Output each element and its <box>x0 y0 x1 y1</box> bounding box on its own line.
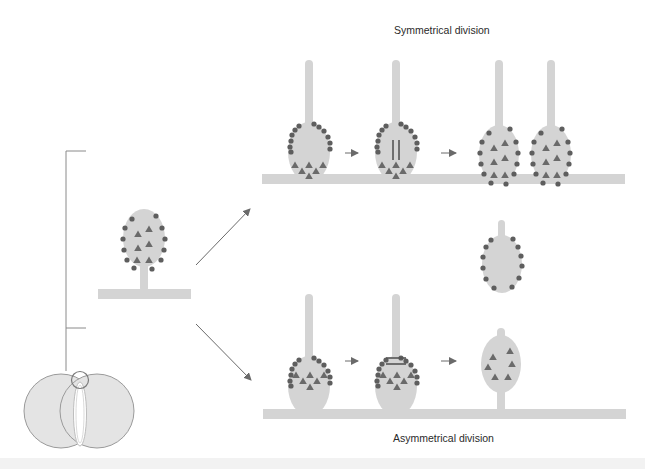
asym-daughter-detached <box>480 220 524 293</box>
arrow-to-symmetrical <box>196 209 250 265</box>
asymmetric-division-diagram <box>0 0 645 469</box>
sym-daughter-left <box>477 60 520 187</box>
sym-cell-spindle <box>374 60 419 182</box>
symmetrical-row <box>262 60 625 187</box>
asym-cell-spindle <box>374 294 419 416</box>
asym-daughter-attached <box>481 328 521 414</box>
sym-daughter-right <box>529 60 572 187</box>
asym-cell-polarized <box>287 294 332 416</box>
bottom-band <box>0 458 645 469</box>
source-cell <box>98 209 191 299</box>
bracket <box>66 151 86 371</box>
asymmetrical-division-label: Asymmetrical division <box>393 432 494 444</box>
asymmetrical-row <box>263 220 626 419</box>
sym-cell-polarized <box>287 60 332 182</box>
arrow-to-asymmetrical <box>196 324 251 380</box>
symmetrical-division-label: Symmetrical division <box>394 24 490 36</box>
embryo <box>24 372 134 449</box>
